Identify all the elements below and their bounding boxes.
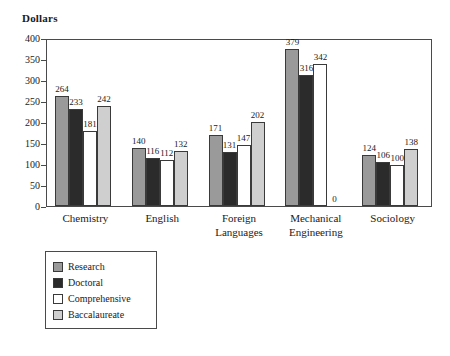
- legend-item-label: Comprehensive: [68, 293, 131, 304]
- x-axis-category-label: English: [124, 211, 201, 225]
- x-axis-category-label: MechanicalEngineering: [277, 211, 354, 239]
- bar[interactable]: [390, 165, 404, 207]
- y-axis-tick-label: 100: [0, 160, 40, 170]
- legend-swatch-icon: [53, 310, 63, 320]
- y-axis-tick-label: 0: [0, 202, 40, 212]
- x-axis: ChemistryEnglishForeignLanguagesMechanic…: [47, 211, 431, 247]
- bar[interactable]: [223, 152, 237, 206]
- x-axis-category-line: Chemistry: [47, 211, 124, 225]
- x-axis-category-line: Foreign: [201, 211, 278, 225]
- x-axis-category-line: English: [124, 211, 201, 225]
- legend: ResearchDoctoralComprehensiveBaccalaurea…: [45, 251, 157, 329]
- legend-swatch-icon: [53, 294, 63, 304]
- bar[interactable]: [313, 64, 327, 206]
- bar[interactable]: [299, 75, 313, 206]
- bar[interactable]: [55, 96, 69, 206]
- y-axis-tick-label: 350: [0, 55, 40, 65]
- bar-value-label: 132: [171, 140, 191, 149]
- bar[interactable]: [237, 145, 251, 206]
- bar[interactable]: [376, 162, 390, 206]
- x-axis-category-line: Mechanical: [277, 211, 354, 225]
- bar-value-label: 138: [401, 138, 421, 147]
- bar-value-label: 0: [324, 195, 344, 204]
- bar[interactable]: [160, 160, 174, 206]
- legend-item-label: Research: [68, 261, 105, 272]
- y-axis-tick-label: 200: [0, 118, 40, 128]
- x-axis-category-label: ForeignLanguages: [201, 211, 278, 239]
- legend-swatch-icon: [53, 278, 63, 288]
- plot-area: 2642331812421401161121321711311472023793…: [47, 40, 431, 206]
- bar[interactable]: [132, 148, 146, 206]
- bar[interactable]: [83, 131, 97, 206]
- legend-item[interactable]: Comprehensive: [53, 291, 131, 306]
- legend-item[interactable]: Baccalaureate: [53, 307, 124, 322]
- bar-group: 264233181242: [55, 40, 111, 206]
- bar[interactable]: [251, 122, 265, 206]
- bar-value-label: 379: [282, 38, 302, 47]
- bar-value-label: 242: [94, 95, 114, 104]
- y-axis-tick-label: 50: [0, 181, 40, 191]
- bar-group: 3793163420: [285, 40, 341, 206]
- page-title: Dollars: [22, 12, 58, 24]
- bar-value-label: 233: [66, 98, 86, 107]
- bar-group: 171131147202: [209, 40, 265, 206]
- y-axis-tick-label: 400: [0, 34, 40, 44]
- y-axis-tick-mark: [41, 207, 46, 208]
- legend-swatch-icon: [53, 262, 63, 272]
- y-axis-tick-label: 300: [0, 76, 40, 86]
- bar[interactable]: [97, 106, 111, 206]
- x-axis-category-line: Sociology: [354, 211, 431, 225]
- legend-item-label: Doctoral: [68, 277, 103, 288]
- bar-value-label: 264: [52, 85, 72, 94]
- x-axis-category-line: Engineering: [277, 225, 354, 239]
- bar-value-label: 342: [310, 53, 330, 62]
- bar-value-label: 202: [248, 111, 268, 120]
- bar-value-label: 171: [206, 124, 226, 133]
- x-axis-category-line: Languages: [201, 225, 278, 239]
- chart-page: Dollars 400350300250200150100500 2642331…: [0, 0, 450, 356]
- bar[interactable]: [146, 158, 160, 206]
- y-axis-tick-label: 250: [0, 97, 40, 107]
- legend-item-label: Baccalaureate: [68, 309, 124, 320]
- bar-value-label: 140: [129, 137, 149, 146]
- bar-group: 140116112132: [132, 40, 188, 206]
- legend-item[interactable]: Research: [53, 259, 105, 274]
- bar[interactable]: [174, 151, 188, 206]
- y-axis-tick-label: 150: [0, 139, 40, 149]
- legend-item[interactable]: Doctoral: [53, 275, 103, 290]
- bar[interactable]: [362, 155, 376, 206]
- y-axis: 400350300250200150100500: [0, 39, 40, 207]
- x-axis-category-label: Chemistry: [47, 211, 124, 225]
- bar-group: 124106100138: [362, 40, 418, 206]
- bar[interactable]: [404, 149, 418, 206]
- x-axis-category-label: Sociology: [354, 211, 431, 225]
